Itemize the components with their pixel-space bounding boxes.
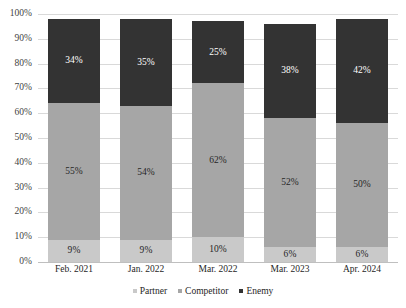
bar-segment-competitor[interactable]: 54% [120, 106, 172, 240]
bar-segment-competitor[interactable]: 52% [264, 118, 316, 247]
y-axis-tick-label: 20% [0, 208, 32, 218]
y-axis-tick-label: 80% [0, 59, 32, 69]
y-axis-tick-label: 60% [0, 108, 32, 118]
bar-segment-value-label: 9% [140, 246, 153, 256]
legend-swatch-icon [178, 289, 182, 293]
x-axis-tick-label: Mar. 2023 [254, 264, 326, 275]
x-axis: Feb. 2021Jan. 2022Mar. 2022Mar. 2023Apr.… [38, 264, 398, 280]
bar-segment-enemy[interactable]: 42% [336, 19, 388, 123]
x-axis-tick-label: Jan. 2022 [110, 264, 182, 275]
bar-segment-value-label: 62% [209, 156, 227, 166]
bar-segment-value-label: 6% [356, 250, 369, 260]
bar-segment-value-label: 35% [137, 58, 155, 68]
x-axis-tick-label: Feb. 2021 [38, 264, 110, 275]
y-axis-tick-label: 30% [0, 183, 32, 193]
bar-segment-partner[interactable]: 9% [48, 240, 100, 262]
bar-group[interactable]: 34%55%9% [48, 14, 100, 262]
legend-label: Partner [140, 286, 167, 296]
plot-area: 34%55%9%35%54%9%25%62%10%38%52%6%42%50%6… [38, 14, 398, 262]
legend-item-enemy[interactable]: Enemy [239, 286, 273, 296]
bar-segment-enemy[interactable]: 35% [120, 19, 172, 106]
y-axis-tick-label: 0% [0, 257, 32, 267]
bar-group[interactable]: 38%52%6% [264, 14, 316, 262]
y-axis-tick-label: 70% [0, 84, 32, 94]
bar-segment-competitor[interactable]: 55% [48, 103, 100, 239]
axis-baseline [38, 262, 398, 263]
bar-segment-value-label: 55% [65, 167, 83, 177]
legend-swatch-icon [239, 289, 243, 293]
y-axis-tick-label: 10% [0, 232, 32, 242]
legend-label: Enemy [246, 286, 273, 296]
bar-group[interactable]: 25%62%10% [192, 14, 244, 262]
stacked-bar-chart: 0%10%20%30%40%50%60%70%80%90%100% 34%55%… [0, 0, 406, 308]
bar-segment-partner[interactable]: 10% [192, 237, 244, 262]
bar-segment-enemy[interactable]: 34% [48, 19, 100, 103]
legend-item-partner[interactable]: Partner [133, 286, 167, 296]
legend-swatch-icon [133, 289, 137, 293]
bar-segment-value-label: 10% [209, 245, 227, 255]
bar-segment-partner[interactable]: 6% [336, 247, 388, 262]
y-axis-tick-label: 90% [0, 34, 32, 44]
bar-segment-value-label: 50% [353, 180, 371, 190]
bar-segment-value-label: 52% [281, 178, 299, 188]
legend-label: Competitor [185, 286, 228, 296]
bar-group[interactable]: 42%50%6% [336, 14, 388, 262]
y-axis-tick-label: 40% [0, 158, 32, 168]
bar-segment-value-label: 34% [65, 56, 83, 66]
legend-item-competitor[interactable]: Competitor [178, 286, 228, 296]
y-axis-tick-label: 100% [0, 9, 32, 19]
bar-segment-partner[interactable]: 6% [264, 247, 316, 262]
bar-segment-value-label: 54% [137, 168, 155, 178]
chart-legend: PartnerCompetitorEnemy [0, 286, 406, 296]
bar-segment-competitor[interactable]: 50% [336, 123, 388, 247]
y-axis-tick-label: 50% [0, 133, 32, 143]
bar-segment-partner[interactable]: 9% [120, 240, 172, 262]
bar-group[interactable]: 35%54%9% [120, 14, 172, 262]
bar-segment-enemy[interactable]: 25% [192, 21, 244, 83]
bar-segment-value-label: 38% [281, 66, 299, 76]
bar-segment-value-label: 25% [209, 48, 227, 58]
y-axis: 0%10%20%30%40%50%60%70%80%90%100% [0, 0, 36, 308]
bar-segment-enemy[interactable]: 38% [264, 24, 316, 118]
x-axis-tick-label: Mar. 2022 [182, 264, 254, 275]
x-axis-tick-label: Apr. 2024 [326, 264, 398, 275]
bar-segment-competitor[interactable]: 62% [192, 83, 244, 237]
bar-segment-value-label: 6% [284, 250, 297, 260]
bar-segment-value-label: 9% [68, 246, 81, 256]
bar-segment-value-label: 42% [353, 66, 371, 76]
bars-container: 34%55%9%35%54%9%25%62%10%38%52%6%42%50%6… [38, 14, 398, 262]
